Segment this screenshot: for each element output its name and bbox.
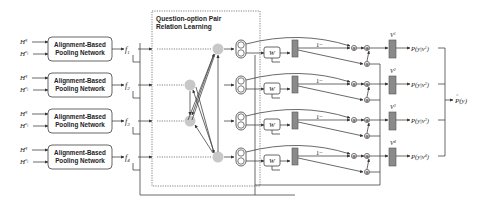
svg-text:⊗: ⊗ bbox=[352, 154, 356, 159]
v-bar-1 bbox=[389, 40, 396, 58]
model-architecture-diagram: Question-option Pair Relation Learning H… bbox=[0, 0, 482, 206]
svg-text:Hq: Hq bbox=[19, 145, 28, 154]
row-4: Hq Hoi Alignment-Based Pooling Network f… bbox=[19, 139, 445, 176]
output-prob: P(y) bbox=[454, 97, 468, 105]
svg-text:⊗: ⊗ bbox=[352, 46, 356, 51]
svg-text:Alignment-Based: Alignment-Based bbox=[54, 113, 106, 121]
v4-label: V4 bbox=[390, 139, 396, 147]
prob-label-1: P(y|v1) bbox=[410, 45, 429, 54]
svg-text:⊗: ⊗ bbox=[365, 170, 369, 175]
v1-label: V1 bbox=[390, 31, 396, 39]
svg-text:Pooling Network: Pooling Network bbox=[55, 85, 105, 93]
gate-label: 1− bbox=[316, 41, 323, 48]
svg-text:⊕: ⊕ bbox=[365, 82, 369, 87]
feature-f1: f1 bbox=[125, 45, 130, 55]
svg-text:⊗: ⊗ bbox=[352, 82, 356, 87]
v-bar-3 bbox=[389, 112, 396, 130]
svg-text:Pooling Network: Pooling Network bbox=[55, 121, 105, 129]
svg-text:1−: 1− bbox=[316, 113, 323, 120]
svg-text:1−: 1− bbox=[316, 149, 323, 156]
relation-node-2 bbox=[185, 80, 196, 91]
svg-text:Hoi: Hoi bbox=[19, 121, 28, 130]
input-hq: Hq bbox=[19, 37, 28, 46]
input-hoi: Hoi bbox=[19, 49, 28, 58]
gate-bar-1 bbox=[292, 40, 298, 57]
feature-f4: f4 bbox=[125, 153, 130, 163]
feature-f2: f2 bbox=[125, 81, 130, 91]
row-2: Hq Hoi Alignment-Based Pooling Network f… bbox=[19, 67, 445, 104]
relation-node-1 bbox=[213, 44, 224, 55]
svg-text:⊗: ⊗ bbox=[352, 118, 356, 123]
svg-text:⊕: ⊕ bbox=[365, 118, 369, 123]
gate-bar-3 bbox=[292, 112, 298, 129]
v2-label: V2 bbox=[390, 67, 396, 75]
relation-box-title: Question-option Pair bbox=[156, 15, 222, 23]
svg-text:⊕: ⊕ bbox=[365, 46, 369, 51]
pooling-label: Pooling Network bbox=[55, 49, 105, 57]
prob-label-2: P(y|v2) bbox=[410, 81, 429, 90]
gate-bar-2 bbox=[292, 76, 298, 93]
relation-edges bbox=[188, 54, 218, 153]
row-3: Hq Hoi Alignment-Based Pooling Network f… bbox=[19, 103, 445, 140]
feature-f3: f3 bbox=[125, 117, 130, 127]
svg-text:⊗: ⊗ bbox=[365, 98, 369, 103]
svg-text:Hq: Hq bbox=[19, 73, 28, 82]
svg-text:Hq: Hq bbox=[19, 109, 28, 118]
row-1: Hq Hoi Alignment-Based Pooling Network f… bbox=[19, 31, 445, 68]
v-bar-2 bbox=[389, 76, 396, 94]
svg-text:Alignment-Based: Alignment-Based bbox=[54, 77, 106, 85]
svg-text:Hoi: Hoi bbox=[19, 85, 28, 94]
relation-box-title-2: Relation Learning bbox=[156, 23, 212, 31]
svg-text:⊕: ⊕ bbox=[365, 154, 369, 159]
svg-text:1−: 1− bbox=[316, 77, 323, 84]
prob-label-3: P(y|v3) bbox=[410, 117, 429, 126]
pooling-label: Alignment-Based bbox=[54, 41, 106, 49]
svg-text:Hoi: Hoi bbox=[19, 157, 28, 166]
svg-text:⊗: ⊗ bbox=[365, 134, 369, 139]
prob-label-4: P(y|v4) bbox=[410, 153, 429, 162]
svg-text:⊗: ⊗ bbox=[365, 62, 369, 67]
v3-label: V3 bbox=[390, 103, 396, 111]
svg-text:Pooling Network: Pooling Network bbox=[55, 157, 105, 165]
v-bar-4 bbox=[389, 148, 396, 166]
relation-node-3 bbox=[185, 116, 196, 127]
svg-text:Alignment-Based: Alignment-Based bbox=[54, 149, 106, 157]
gate-bar-4 bbox=[292, 148, 298, 165]
relation-node-4 bbox=[213, 152, 224, 163]
